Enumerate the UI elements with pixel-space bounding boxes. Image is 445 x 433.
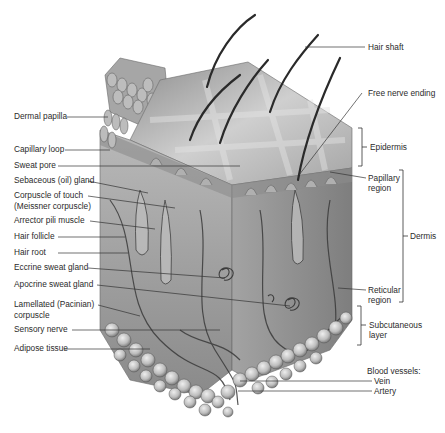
label-sensory-nerve: Sensory nerve — [14, 324, 68, 334]
label-lamellated-corpuscle-line2: corpuscle — [14, 310, 50, 320]
label-epidermis: Epidermis — [370, 142, 407, 152]
skin-diagram: Dermal papilla Capillary loop Sweat pore… — [0, 0, 445, 433]
label-artery: Artery — [374, 386, 396, 396]
label-blood-vessels: Blood vessels: — [367, 366, 421, 376]
label-dermis: Dermis — [410, 231, 436, 241]
label-vein: Vein — [374, 376, 390, 386]
label-subcutaneous-layer: Subcutaneous — [369, 320, 422, 330]
label-sebaceous-gland: Sebaceous (oil) gland — [14, 175, 94, 185]
label-free-nerve-ending: Free nerve ending — [368, 88, 435, 98]
label-apocrine-sweat-gland: Apocrine sweat gland — [14, 279, 93, 289]
label-dermal-papilla: Dermal papilla — [14, 111, 67, 121]
label-hair-root: Hair root — [14, 247, 46, 257]
label-capillary-loop: Capillary loop — [14, 144, 64, 154]
label-eccrine-sweat-gland: Eccrine sweat gland — [14, 262, 88, 272]
label-papillary-region-line2: region — [368, 183, 391, 193]
label-arrector-pili-muscle: Arrector pili muscle — [14, 215, 85, 225]
label-reticular-region-line2: region — [368, 295, 391, 305]
dermis-side-face — [232, 168, 352, 380]
region-brackets — [357, 128, 408, 345]
label-hair-shaft: Hair shaft — [368, 42, 404, 52]
label-lamellated-corpuscle: Lamellated (Pacinian) — [14, 299, 94, 309]
label-meissner-corpuscle: (Meissner corpuscle) — [14, 201, 91, 211]
label-adipose-tissue: Adipose tissue — [14, 343, 68, 353]
label-sweat-pore: Sweat pore — [14, 160, 56, 170]
label-hair-follicle: Hair follicle — [14, 231, 55, 241]
label-papillary-region: Papillary — [368, 173, 400, 183]
label-reticular-region: Reticular — [368, 285, 401, 295]
label-corpuscle-of-touch: Corpuscle of touch — [14, 190, 83, 200]
label-subcutaneous-layer-line2: layer — [369, 330, 387, 340]
